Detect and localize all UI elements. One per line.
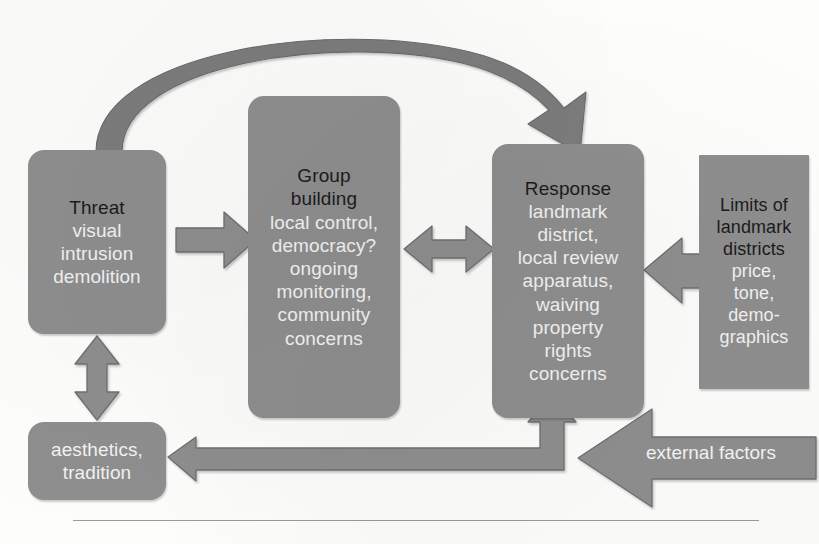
node-group-building[interactable]: Group building local control, democracy?… [248, 96, 400, 418]
connector-group-to-response [404, 226, 494, 272]
node-aesthetics-line-2: tradition [63, 461, 132, 484]
node-response-header: Response [525, 177, 611, 200]
node-limits-line-2: tone, [734, 283, 775, 305]
node-threat[interactable]: Threat visual intrusion demolition [28, 150, 166, 334]
node-aesthetics-line-1: aesthetics, [51, 438, 143, 461]
node-response-line-1: landmark [529, 200, 608, 223]
node-threat-line-2: intrusion [61, 242, 134, 265]
node-group-building-line-3: ongoing [290, 257, 358, 280]
node-threat-line-1: visual [72, 219, 121, 242]
node-limits-line-1: price, [732, 261, 777, 283]
node-response[interactable]: Response landmark district, local review… [492, 144, 644, 418]
node-limits-of-landmark-districts[interactable]: Limits of landmark districts price, tone… [699, 155, 809, 389]
node-group-building-line-1: local control, [270, 211, 378, 234]
node-threat-line-3: demolition [53, 265, 141, 288]
node-group-building-line-5: community [278, 303, 371, 326]
node-group-building-header-2: building [291, 187, 357, 210]
node-group-building-line-4: monitoring, [276, 280, 371, 303]
footer-rule [73, 520, 759, 521]
node-response-line-7: rights [544, 339, 591, 362]
connector-external-factors [578, 409, 816, 507]
node-response-line-8: concerns [529, 362, 607, 385]
connector-threat-to-group [176, 212, 256, 268]
node-response-line-6: property [533, 316, 604, 339]
node-aesthetics-tradition[interactable]: aesthetics, tradition [28, 422, 166, 500]
node-limits-header: Limits of [720, 195, 788, 217]
node-response-line-5: waiving [536, 293, 600, 316]
node-response-line-2: district, [537, 223, 598, 246]
node-group-building-line-2: democracy? [272, 234, 377, 257]
connector-limits-to-response [644, 238, 706, 303]
node-response-line-3: local review [518, 246, 618, 269]
node-group-building-line-6: concerns [285, 327, 363, 350]
node-limits-header-3: districts [723, 239, 785, 261]
node-group-building-header: Group [297, 164, 350, 187]
node-response-line-4: apparatus, [523, 269, 614, 292]
connector-threat-to-aesthetics [75, 336, 119, 420]
node-limits-header-2: landmark [717, 217, 792, 239]
node-limits-line-3: demo- [728, 305, 780, 327]
diagram-canvas: Threat visual intrusion demolition Group… [0, 0, 819, 544]
node-limits-line-4: graphics [720, 327, 789, 349]
node-threat-header: Threat [69, 196, 125, 219]
